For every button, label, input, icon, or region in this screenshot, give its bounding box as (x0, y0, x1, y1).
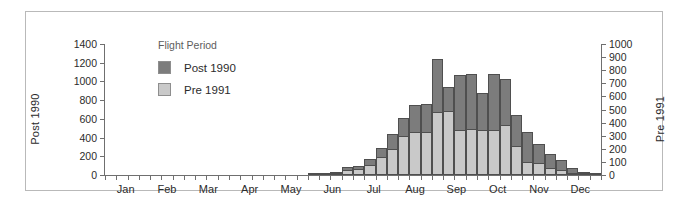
chart-frame: Post 1990 Pre 1991 020040060080010001200… (25, 11, 663, 191)
y-axis-left-title: Post 1990 (29, 93, 41, 144)
y-tick-right-1000 (602, 44, 606, 45)
y-tick-left-1400 (100, 44, 104, 45)
y-tick-left-1000 (100, 81, 104, 82)
y-tick-right-200 (602, 149, 606, 150)
x-month-label-nov: Nov (529, 183, 549, 195)
bar-pre-1991-34 (488, 130, 499, 175)
x-month-label-dec: Dec (571, 183, 591, 195)
x-tick-24 (376, 176, 377, 180)
x-tick-7 (184, 176, 185, 180)
x-month-label-feb: Feb (158, 183, 177, 195)
bar-pre-1991-40 (556, 170, 567, 175)
bar-pre-1991-19 (319, 173, 330, 175)
x-tick-14 (263, 176, 264, 180)
x-tick-9 (206, 176, 207, 180)
y-tick-label-left-1400: 1400 (57, 39, 97, 50)
chart-figure: Post 1990 Pre 1991 020040060080010001200… (0, 0, 690, 202)
x-tick-8 (195, 176, 196, 180)
x-tick-31 (454, 176, 455, 180)
x-tick-43 (590, 176, 591, 180)
y-tick-left-400 (100, 138, 104, 139)
y-tick-label-left-200: 200 (57, 151, 97, 162)
x-tick-6 (173, 176, 174, 180)
y-tick-label-left-1000: 1000 (57, 76, 97, 87)
x-month-label-aug: Aug (405, 183, 425, 195)
x-month-label-sep: Sep (447, 183, 467, 195)
x-tick-4 (150, 176, 151, 180)
x-tick-13 (252, 176, 253, 180)
legend-item-pre-1991: Pre 1991 (158, 83, 236, 96)
bar-pre-1991-24 (376, 157, 387, 175)
y-tick-label-left-1200: 1200 (57, 58, 97, 69)
y-tick-left-1200 (100, 63, 104, 64)
x-tick-30 (443, 176, 444, 180)
bar-pre-1991-21 (342, 170, 353, 175)
x-tick-42 (578, 176, 579, 180)
x-month-label-may: May (281, 183, 302, 195)
bar-pre-1991-18 (308, 173, 319, 175)
bar-pre-1991-27 (409, 132, 420, 175)
y-tick-label-right-400: 400 (609, 118, 627, 129)
bar-pre-1991-32 (466, 129, 477, 176)
legend-label-pre-1991: Pre 1991 (184, 84, 231, 96)
bar-pre-1991-28 (421, 132, 432, 175)
bar-pre-1991-41 (567, 173, 578, 175)
x-tick-0 (105, 176, 106, 180)
x-tick-38 (533, 176, 534, 180)
y-tick-right-100 (602, 162, 606, 163)
bar-pre-1991-23 (364, 165, 375, 175)
bar-pre-1991-30 (443, 111, 454, 175)
y-tick-label-right-1000: 1000 (609, 39, 632, 50)
x-month-label-jan: Jan (117, 183, 135, 195)
bar-pre-1991-33 (477, 130, 488, 175)
x-tick-28 (421, 176, 422, 180)
x-tick-41 (567, 176, 568, 180)
bar-pre-1991-43 (590, 173, 601, 175)
y-tick-right-300 (602, 136, 606, 137)
bar-pre-1991-38 (533, 163, 544, 175)
y-tick-label-right-100: 100 (609, 157, 627, 168)
legend-title: Flight Period (158, 39, 236, 51)
y-tick-left-600 (100, 119, 104, 120)
y-tick-right-500 (602, 110, 606, 111)
y-tick-label-left-400: 400 (57, 133, 97, 144)
y-tick-right-700 (602, 83, 606, 84)
x-month-label-apr: Apr (241, 183, 258, 195)
x-tick-18 (308, 176, 309, 180)
y-tick-left-0 (100, 175, 104, 176)
x-tick-36 (511, 176, 512, 180)
x-tick-44 (601, 176, 602, 180)
x-tick-37 (522, 176, 523, 180)
y-tick-label-right-800: 800 (609, 65, 627, 76)
x-month-label-oct: Oct (489, 183, 506, 195)
x-tick-21 (342, 176, 343, 180)
y-tick-left-200 (100, 156, 104, 157)
y-tick-label-right-600: 600 (609, 91, 627, 102)
legend-item-post-1990: Post 1990 (158, 61, 236, 74)
x-tick-25 (387, 176, 388, 180)
x-tick-34 (488, 176, 489, 180)
y-tick-label-right-900: 900 (609, 52, 627, 63)
y-tick-label-right-500: 500 (609, 105, 627, 116)
x-month-label-mar: Mar (199, 183, 218, 195)
x-tick-39 (545, 176, 546, 180)
x-tick-22 (353, 176, 354, 180)
legend-swatch-pre-1991 (158, 83, 171, 96)
x-tick-15 (274, 176, 275, 180)
y-tick-right-600 (602, 96, 606, 97)
x-tick-10 (218, 176, 219, 180)
x-tick-27 (409, 176, 410, 180)
y-tick-left-800 (100, 100, 104, 101)
x-tick-40 (556, 176, 557, 180)
bar-pre-1991-20 (330, 173, 341, 175)
x-tick-12 (240, 176, 241, 180)
y-tick-right-800 (602, 70, 606, 71)
bar-pre-1991-25 (387, 149, 398, 175)
y-tick-label-right-0: 0 (609, 170, 615, 181)
x-tick-33 (477, 176, 478, 180)
legend-swatch-post-1990 (158, 61, 171, 74)
y-tick-label-left-0: 0 (57, 170, 97, 181)
y-tick-right-900 (602, 57, 606, 58)
x-tick-5 (161, 176, 162, 180)
y-axis-right-title: Pre 1991 (654, 96, 666, 142)
